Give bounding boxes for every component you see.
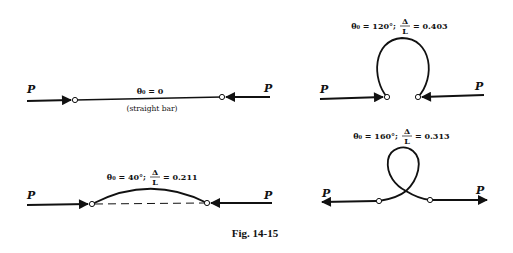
- figure-caption: Fig. 14-15: [232, 227, 279, 239]
- pin-right: [415, 94, 420, 99]
- chord-dashed: [95, 203, 204, 204]
- elastica-arc: [92, 189, 207, 204]
- pin-right: [427, 197, 432, 202]
- straight-bar: [75, 97, 222, 100]
- panel-sublabel: (straight bar): [126, 104, 177, 113]
- ratio-denominator: L: [404, 136, 410, 146]
- pin-left: [376, 198, 381, 203]
- ratio-value: = 0.211: [163, 172, 198, 182]
- force-label-right: P: [475, 184, 485, 197]
- force-label-right: P: [474, 80, 484, 93]
- ratio-denominator: L: [152, 177, 158, 187]
- ratio-numerator: Δ: [404, 126, 410, 136]
- panel-theta-40: θ₀ = 40°; Δ L = 0.211 P P: [26, 167, 273, 207]
- angle-label: θ₀ = 160°;: [353, 131, 398, 141]
- pin-right: [204, 200, 209, 205]
- ratio-numerator: Δ: [402, 16, 408, 26]
- pin-left: [72, 97, 77, 102]
- ratio-value: = 0.403: [413, 21, 448, 31]
- ratio-value: = 0.313: [415, 131, 450, 141]
- ratio-numerator: Δ: [152, 167, 158, 177]
- panel-theta-120: θ₀ = 120°; Δ L = 0.403 P P: [319, 16, 484, 100]
- panel-theta-160: θ₀ = 160°; Δ L = 0.313 P P: [321, 126, 487, 204]
- angle-label: θ₀ = 120°;: [351, 21, 396, 31]
- pin-right: [219, 94, 224, 99]
- force-label-left: P: [321, 187, 331, 200]
- panel-label: θ₀ = 0: [137, 86, 164, 96]
- elastica-figure: P P θ₀ = 0 (straight bar) θ₀ = 120°; Δ L…: [0, 0, 513, 253]
- force-label-right: P: [263, 189, 273, 202]
- angle-label: θ₀ = 40°;: [107, 172, 146, 182]
- force-label-left: P: [319, 83, 329, 96]
- force-arrow-left: [322, 201, 376, 202]
- force-label-left: P: [26, 189, 36, 202]
- force-arrow-right: [422, 95, 484, 97]
- ratio-denominator: L: [402, 26, 408, 36]
- force-label-left: P: [26, 83, 36, 96]
- force-arrow-left: [320, 97, 383, 99]
- pin-left: [384, 94, 389, 99]
- panel-straight-bar: P P θ₀ = 0 (straight bar): [26, 82, 273, 113]
- force-label-right: P: [263, 82, 273, 95]
- elastica-loop: [377, 38, 429, 97]
- pin-left: [89, 201, 94, 206]
- elastica-figure-eight: [379, 148, 430, 201]
- force-arrow-left: [27, 204, 88, 205]
- force-arrow-left: [27, 100, 71, 101]
